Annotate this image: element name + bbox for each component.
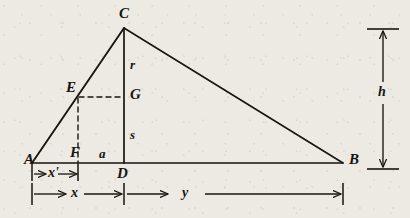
point-label-g: G xyxy=(130,87,141,102)
dimension-y xyxy=(127,183,343,205)
geometry-figure xyxy=(0,0,410,218)
dimension-label-x-prime: x' xyxy=(48,166,59,180)
point-label-d: D xyxy=(117,166,128,181)
segment-label-a: a xyxy=(99,147,106,160)
dimension-x xyxy=(32,183,124,205)
dimension-h xyxy=(367,29,399,169)
side-line-cb xyxy=(124,28,343,163)
point-label-e: E xyxy=(66,80,76,95)
point-label-f: F xyxy=(70,145,80,160)
dimension-label-x: x xyxy=(71,186,78,200)
point-label-b: B xyxy=(349,152,359,167)
point-label-c: C xyxy=(119,6,129,21)
segment-label-s: s xyxy=(130,128,135,141)
point-label-a: A xyxy=(24,152,34,167)
dimension-label-y: y xyxy=(182,186,188,200)
segment-label-r: r xyxy=(130,58,135,71)
dimension-label-h: h xyxy=(378,85,386,99)
